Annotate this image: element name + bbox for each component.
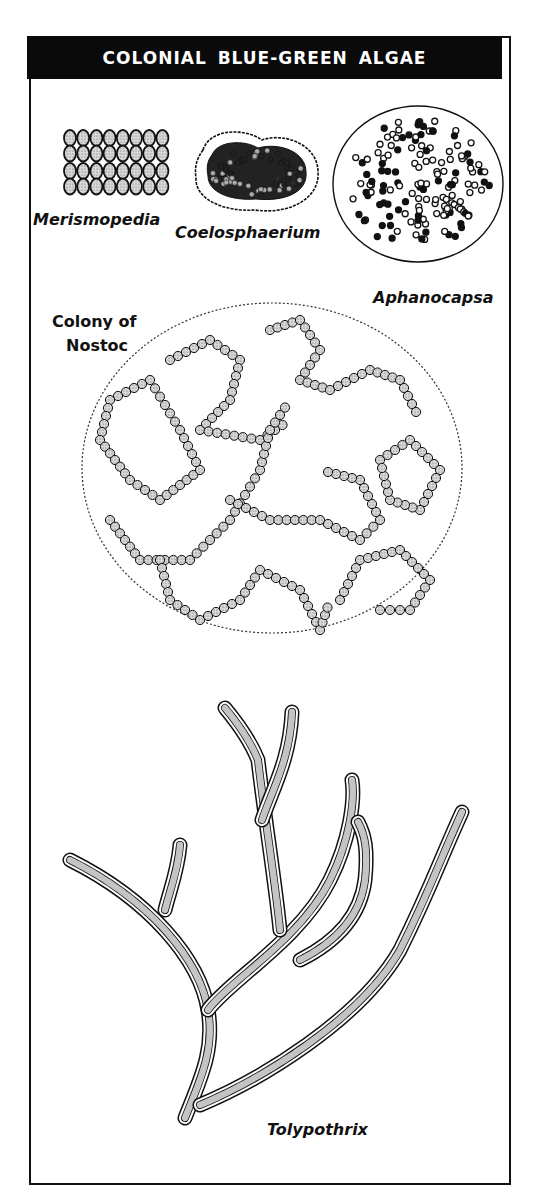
- label-coelosphaerium: Coelosphaerium: [175, 223, 321, 242]
- coelosphaerium-illustration: [195, 132, 318, 211]
- illustrations: [0, 0, 536, 1201]
- label-tolypothrix: Tolypothrix: [267, 1120, 368, 1139]
- merismopedia-illustration: [64, 130, 168, 195]
- label-nostoc-line1: Colony of: [52, 310, 137, 334]
- label-aphanocapsa: Aphanocapsa: [373, 288, 493, 307]
- aphanocapsa-illustration: [333, 106, 503, 262]
- tolypothrix-illustration: [70, 708, 462, 1118]
- label-nostoc-line2: Nostoc: [66, 334, 128, 358]
- label-merismopedia: Merismopedia: [33, 210, 160, 229]
- nostoc-illustration: [82, 303, 462, 635]
